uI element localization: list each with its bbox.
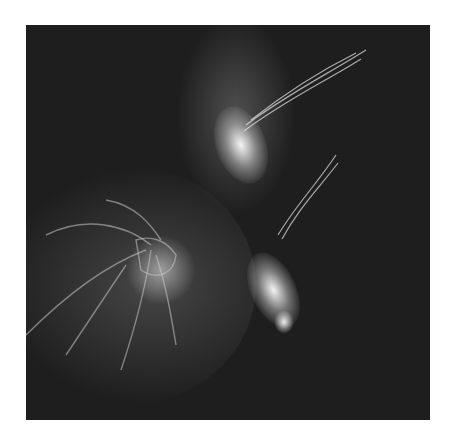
- fiber-strands: [26, 25, 430, 420]
- micrograph: [26, 25, 430, 420]
